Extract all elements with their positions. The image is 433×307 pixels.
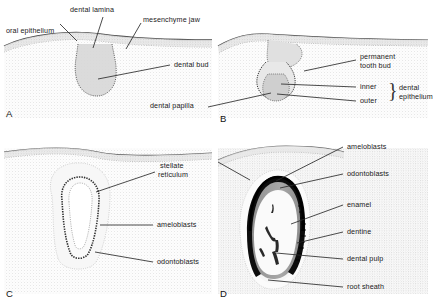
label-ameloblasts-c: ameloblasts [157, 221, 196, 230]
label-dental-lamina: dental lamina [70, 6, 114, 15]
label-mesenchyme-jaw: mesenchyme jaw [143, 16, 200, 25]
panel-letter-c: C [6, 288, 13, 299]
label-dental-pulp: dental pulp [347, 255, 383, 264]
label-stellate-reticulum-line2: reticulum [158, 171, 188, 180]
label-permanent-tooth-bud-line2: tooth bud [360, 62, 391, 71]
label-odontoblasts-d: odontoblasts [347, 170, 389, 179]
label-oral-epithelium: oral epithelium [6, 27, 54, 36]
label-outer: outer [360, 97, 377, 106]
panel-b-artwork [218, 34, 428, 118]
label-dental-bud: dental bud [174, 61, 209, 70]
label-dentine: dentine [347, 228, 371, 237]
panel-letter-b: B [220, 113, 226, 124]
label-ameloblasts-d: ameloblasts [347, 143, 386, 152]
dental-epithelium-bracket: } [388, 80, 398, 100]
label-dental-epithelium-line2: epithelium [399, 93, 433, 102]
label-enamel: enamel [347, 201, 371, 210]
label-dental-papilla: dental papilla [150, 102, 194, 111]
label-inner: inner [360, 83, 376, 92]
tooth-development-figure: oral epithelium dental lamina mesenchyme… [0, 0, 433, 307]
panel-letter-a: A [6, 108, 12, 119]
panel-d-artwork [218, 146, 428, 294]
label-odontoblasts-c: odontoblasts [157, 258, 199, 267]
panel-letter-d: D [220, 288, 227, 299]
label-root-sheath: root sheath [347, 283, 384, 292]
